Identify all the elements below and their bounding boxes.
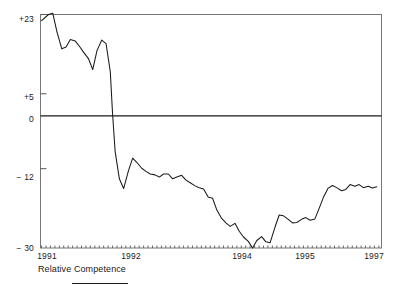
- chart-caption: Relative Competence: [38, 264, 126, 274]
- y-tick-label-0: 0: [2, 114, 34, 124]
- legend-line-swatch: [72, 283, 128, 284]
- plot-frame: [41, 15, 382, 249]
- y-tick-marks: [41, 15, 47, 169]
- x-tick-label-1995: 1995: [285, 251, 325, 261]
- x-tick-label-1991: 1991: [27, 251, 67, 261]
- y-tick-label-23: +23: [2, 14, 34, 24]
- series-line-relative-competence: [42, 13, 377, 248]
- line-chart-plot: [0, 0, 398, 291]
- chart-figure: +23 +5 0 − 12 − 30 1991 1992 1994 1995 1…: [0, 0, 398, 291]
- x-tick-label-1992: 1992: [111, 251, 151, 261]
- x-tick-label-1994: 1994: [222, 251, 262, 261]
- y-tick-label-minus-12: − 12: [0, 172, 34, 182]
- y-tick-label-5: +5: [2, 92, 34, 102]
- x-tick-label-1997: 1997: [354, 251, 394, 261]
